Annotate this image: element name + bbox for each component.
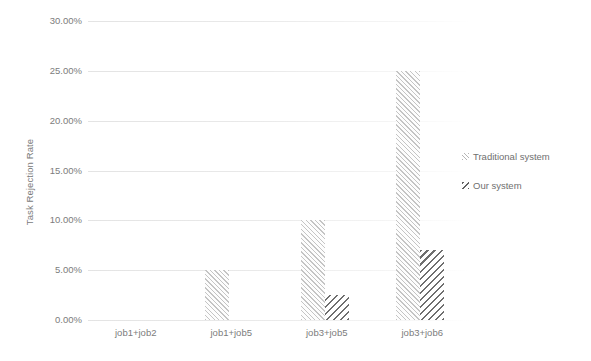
bar-traditional-system	[205, 270, 229, 320]
bar-traditional-system	[301, 220, 325, 320]
bar-group	[375, 21, 471, 320]
chart-legend: Traditional systemOur system	[462, 149, 550, 207]
y-axis-title-label: Task Rejection Rate	[24, 112, 35, 252]
y-axis-tick-label: 20.00%	[26, 115, 82, 126]
x-axis-label: job1+job2	[88, 327, 184, 338]
y-axis-tick-label: 15.00%	[26, 165, 82, 176]
y-axis-tick-label: 25.00%	[26, 65, 82, 76]
x-axis-label: job3+job5	[279, 327, 375, 338]
legend-item[interactable]: Traditional system	[462, 149, 550, 163]
legend-swatch-icon	[462, 153, 469, 160]
y-axis-tick-label: 0.00%	[26, 314, 82, 325]
legend-swatch-icon	[462, 182, 469, 189]
y-axis-tick-label: 30.00%	[26, 15, 82, 26]
y-axis-tick-label: 10.00%	[26, 214, 82, 225]
bar-traditional-system	[396, 71, 420, 320]
bar-chart: Task Rejection Rate 0.00%5.00%10.00%15.0…	[0, 0, 591, 361]
legend-label: Traditional system	[473, 151, 550, 162]
plot-area: 0.00%5.00%10.00%15.00%20.00%25.00%30.00%	[88, 21, 470, 320]
bar-our-system	[325, 295, 349, 320]
legend-label: Our system	[473, 180, 522, 191]
bar-group	[279, 21, 375, 320]
legend-item[interactable]: Our system	[462, 178, 550, 192]
x-axis-label: job1+job5	[184, 327, 280, 338]
bar-our-system	[420, 250, 444, 320]
bar-group	[88, 21, 184, 320]
y-axis-tick-label: 5.00%	[26, 264, 82, 275]
gridline	[88, 320, 470, 321]
x-axis-label: job3+job6	[375, 327, 471, 338]
bar-group	[184, 21, 280, 320]
